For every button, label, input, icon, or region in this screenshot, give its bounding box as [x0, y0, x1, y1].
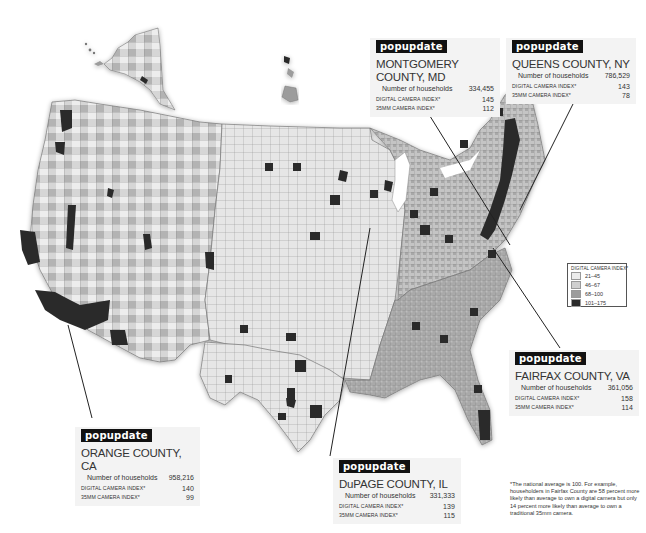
film-index-value: 99	[186, 493, 194, 502]
popupdate-tag: popupdate	[376, 40, 447, 53]
households-row: Number of households 958,216	[81, 473, 194, 482]
legend-swatch	[571, 281, 581, 289]
households-row: Number of households 361,056	[515, 383, 633, 392]
popupdate-tag: popupdate	[512, 40, 583, 53]
film-index-row: 35mm CAMERA INDEX* 112	[376, 104, 494, 113]
film-index-value: 112	[483, 104, 494, 113]
digital-index-row: DIGITAL CAMERA INDEX* 145	[376, 95, 494, 104]
households-value: 786,529	[605, 71, 630, 80]
film-index-value: 78	[622, 91, 630, 100]
digital-index-row: DIGITAL CAMERA INDEX* 158	[515, 394, 633, 403]
county-name: DuPAGE COUNTY, IL	[339, 478, 455, 491]
digital-index-row: DIGITAL CAMERA INDEX* 140	[81, 484, 194, 493]
film-index-value: 115	[444, 511, 455, 520]
households-value: 361,056	[608, 383, 633, 392]
county-name: MONTGOMERY COUNTY, MD	[376, 58, 494, 84]
film-index-value: 114	[622, 403, 633, 412]
legend-item: 46–67	[571, 280, 623, 289]
alaska-shape	[85, 28, 175, 110]
households-value: 334,455	[469, 84, 494, 93]
callout-dupage: popupdate DuPAGE COUNTY, IL Number of ho…	[333, 458, 461, 524]
hawaii-shape	[282, 56, 298, 102]
map-legend: DIGITAL CAMERA INDEX* 21–45 46–67 68–100…	[567, 263, 627, 307]
region-west	[30, 100, 222, 362]
digital-index-value: 140	[182, 484, 194, 493]
leader-fairfax	[493, 248, 560, 348]
film-index-row: 35mm CAMERA INDEX* 99	[81, 493, 194, 502]
households-row: Number of households 331,333	[339, 491, 455, 500]
digital-index-row: DIGITAL CAMERA INDEX* 139	[339, 502, 455, 511]
legend-item: 21–45	[571, 271, 623, 280]
digital-index-value: 145	[482, 95, 494, 104]
legend-swatch	[571, 299, 581, 307]
leader-orange	[68, 325, 92, 418]
digital-index-row: DIGITAL CAMERA INDEX* 143	[512, 82, 630, 91]
film-index-row: 35mm CAMERA INDEX* 115	[339, 511, 455, 520]
households-value: 331,333	[430, 491, 455, 500]
legend-item: 101–175	[571, 298, 623, 307]
callout-montgomery: popupdate MONTGOMERY COUNTY, MD Number o…	[370, 38, 500, 117]
county-name: FAIRFAX COUNTY, VA	[515, 370, 633, 383]
digital-index-value: 158	[621, 394, 633, 403]
legend-item: 68–100	[571, 289, 623, 298]
county-name: ORANGE COUNTY, CA	[81, 447, 194, 473]
legend-swatch	[571, 290, 581, 298]
households-value: 958,216	[169, 473, 194, 482]
legend-swatch	[571, 272, 581, 280]
footnote: *The national average is 100. For exampl…	[510, 481, 640, 517]
callout-orange: popupdate ORANGE COUNTY, CA Number of ho…	[75, 427, 200, 506]
popupdate-tag: popupdate	[515, 352, 586, 365]
region-plains	[205, 124, 405, 380]
callout-queens: popupdate QUEENS COUNTY, NY Number of ho…	[506, 38, 636, 104]
legend-title: DIGITAL CAMERA INDEX*	[571, 266, 623, 271]
households-row: Number of households 334,455	[376, 84, 494, 93]
county-name: QUEENS COUNTY, NY	[512, 58, 630, 71]
popupdate-tag: popupdate	[339, 460, 410, 473]
callout-fairfax: popupdate FAIRFAX COUNTY, VA Number of h…	[509, 350, 639, 416]
digital-index-value: 139	[443, 502, 455, 511]
popupdate-tag: popupdate	[81, 429, 152, 442]
film-index-row: 35mm CAMERA INDEX* 114	[515, 403, 633, 412]
film-index-row: 35mm CAMERA INDEX* 78	[512, 91, 630, 100]
digital-index-value: 143	[618, 82, 630, 91]
households-row: Number of households 786,529	[512, 71, 630, 80]
